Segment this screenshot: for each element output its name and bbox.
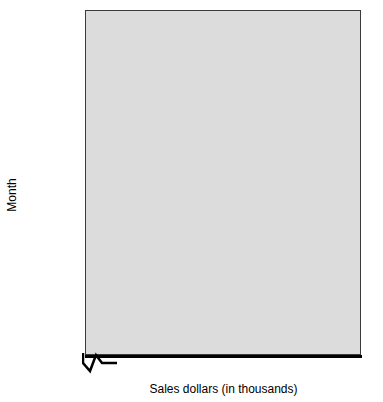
plot-area xyxy=(85,10,361,355)
bar-chart: Month Sales dollars (in thousands) xyxy=(0,0,383,402)
y-axis-tick-labels xyxy=(0,0,82,402)
x-axis-line xyxy=(85,355,362,358)
x-axis-label: Sales dollars (in thousands) xyxy=(85,382,362,396)
axis-break-icon xyxy=(82,352,118,374)
bars-container xyxy=(86,11,360,354)
